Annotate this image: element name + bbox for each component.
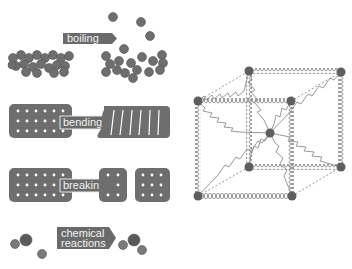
node-back-top-right [337, 68, 346, 77]
boiling-panel: boiling [8, 13, 168, 83]
states-of-matter-diagram: boiling bending [0, 0, 352, 269]
gas-atoms [102, 13, 168, 83]
node-back-bottom-left [245, 163, 254, 172]
node-center [266, 129, 275, 138]
bending-panel: bending [9, 104, 170, 138]
cube-nodes [194, 67, 346, 201]
svg-text:bending: bending [63, 116, 102, 128]
node-front-top-left [194, 97, 203, 106]
node-front-bottom-right [288, 192, 297, 201]
spring-cube-model [194, 67, 346, 201]
liquid-atom-cluster [8, 51, 74, 78]
svg-text:boiling: boiling [67, 32, 99, 44]
chemical-reactions-panel: chemical reactions [11, 227, 147, 259]
lattice-after-bending [97, 106, 170, 138]
svg-text:reactions: reactions [61, 237, 106, 249]
product-molecule [119, 234, 147, 255]
node-front-bottom-left [194, 192, 203, 201]
node-back-top-left [245, 67, 254, 76]
reactant-atoms [11, 234, 47, 259]
node-back-bottom-right [337, 163, 346, 172]
node-front-top-right [287, 97, 296, 106]
label-boiling: boiling [63, 32, 117, 44]
label-chemical-reactions: chemical reactions [57, 227, 116, 249]
lattice-fragment-right [135, 168, 170, 202]
svg-text:breaking: breaking [63, 179, 105, 191]
breaking-panel: breaking [9, 168, 170, 202]
lattice-fragment-left [99, 168, 127, 202]
